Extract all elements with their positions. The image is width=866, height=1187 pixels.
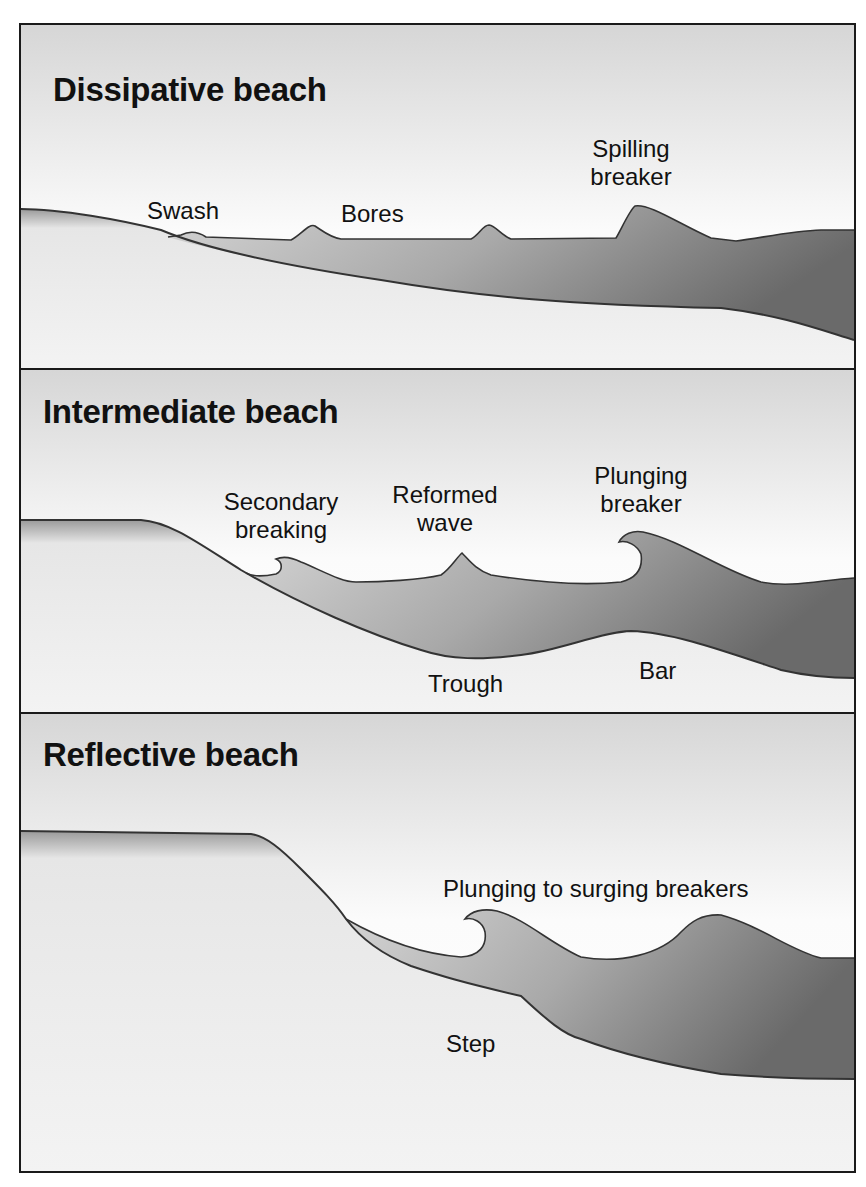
label-bores: Bores [341,200,404,228]
label-secondary-line1: Secondary [206,488,356,516]
label-spilling-line1: Spilling [581,135,681,163]
panel-title-reflective: Reflective beach [43,736,299,774]
label-plunging-to-surging-breakers: Plunging to surging breakers [443,875,749,903]
label-secondary-line2: breaking [206,516,356,544]
reflective-beach-profile-illustration [21,714,854,1171]
label-reformed-line2: wave [385,509,505,537]
label-plunging-line1: Plunging [581,462,701,490]
beach-types-figure: Dissipative beach Swash Bores Spilling b… [19,23,856,1173]
panel-title-intermediate: Intermediate beach [43,393,338,431]
label-secondary-breaking: Secondary breaking [206,488,356,544]
label-step: Step [446,1030,495,1058]
panel-dissipative-beach: Dissipative beach Swash Bores Spilling b… [21,25,854,370]
label-trough: Trough [428,670,503,698]
label-reformed-wave: Reformed wave [385,481,505,537]
label-reformed-line1: Reformed [385,481,505,509]
panel-reflective-beach: Reflective beach Plunging to surging bre… [21,714,854,1171]
panel-intermediate-beach: Intermediate beach Secondary breaking Re… [21,370,854,714]
label-plunging-line2: breaker [581,490,701,518]
panel-title-dissipative: Dissipative beach [53,71,327,109]
label-spilling-breaker: Spilling breaker [581,135,681,191]
label-spilling-line2: breaker [581,163,681,191]
label-swash: Swash [147,197,219,225]
label-plunging-breaker: Plunging breaker [581,462,701,518]
label-bar: Bar [639,657,676,685]
